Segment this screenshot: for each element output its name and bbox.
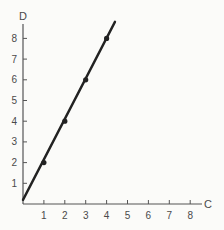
y-tick-label: 2 xyxy=(11,157,17,168)
x-tick-label: 2 xyxy=(62,210,68,221)
x-axis-ticks: 12345678 xyxy=(41,200,193,221)
y-tick-label: 4 xyxy=(11,116,17,127)
y-tick-label: 5 xyxy=(11,95,17,106)
data-point xyxy=(41,160,46,165)
x-tick-label: 8 xyxy=(187,210,193,221)
y-tick-label: 6 xyxy=(11,74,17,85)
y-tick-label: 1 xyxy=(11,178,17,189)
data-point xyxy=(104,36,109,41)
x-tick-label: 5 xyxy=(125,210,131,221)
y-tick-label: 3 xyxy=(11,136,17,147)
data-series xyxy=(23,22,115,200)
y-tick-label: 7 xyxy=(11,54,17,65)
x-axis-label: C xyxy=(204,198,212,210)
y-axis-label: D xyxy=(19,10,27,22)
line-chart: 12345678 12345678 C D xyxy=(0,0,224,230)
axes xyxy=(23,24,202,204)
data-point xyxy=(62,119,67,124)
y-axis-ticks: 12345678 xyxy=(11,33,27,189)
x-tick-label: 3 xyxy=(83,210,89,221)
y-tick-label: 8 xyxy=(11,33,17,44)
data-point xyxy=(83,77,88,82)
x-tick-label: 4 xyxy=(104,210,110,221)
fit-line xyxy=(23,22,115,200)
x-tick-label: 7 xyxy=(167,210,173,221)
x-tick-label: 1 xyxy=(41,210,47,221)
x-tick-label: 6 xyxy=(146,210,152,221)
